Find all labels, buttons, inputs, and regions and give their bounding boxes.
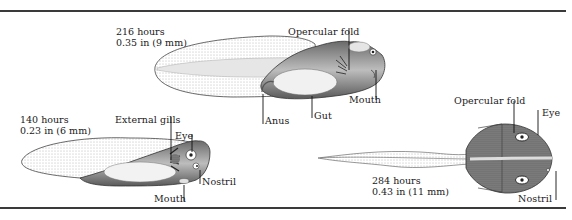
- tadpole-216-hours: [155, 36, 385, 99]
- label-284-eye: Eye: [542, 107, 560, 118]
- caption-284-size: 0.43 in (11 mm): [372, 186, 449, 197]
- label-216-anus: Anus: [265, 115, 289, 126]
- tail: [318, 151, 470, 167]
- caption-216-time: 216 hours: [116, 26, 165, 37]
- caption-140-time: 140 hours: [20, 114, 69, 125]
- label-140-mouth: Mouth: [154, 193, 186, 204]
- caption-140-size: 0.23 in (6 mm): [20, 125, 91, 136]
- label-140-external-gills: External gills: [115, 114, 181, 125]
- label-284-opercular-fold: Opercular fold: [454, 95, 526, 106]
- label-284-nostril: Nostril: [518, 193, 552, 204]
- label-216-opercular-fold: Opercular fold: [288, 26, 360, 37]
- label-216-mouth: Mouth: [349, 94, 381, 105]
- tadpole-140-hours: [22, 138, 210, 186]
- caption-216-size: 0.35 in (9 mm): [116, 37, 187, 48]
- label-216-gut: Gut: [314, 110, 332, 121]
- gut-shape: [273, 69, 337, 95]
- tadpole-illustrations: [0, 0, 572, 220]
- label-140-eye: Eye: [175, 130, 193, 141]
- label-140-nostril: Nostril: [202, 176, 236, 187]
- caption-284-time: 284 hours: [372, 175, 421, 186]
- tadpole-284-hours: [318, 124, 552, 193]
